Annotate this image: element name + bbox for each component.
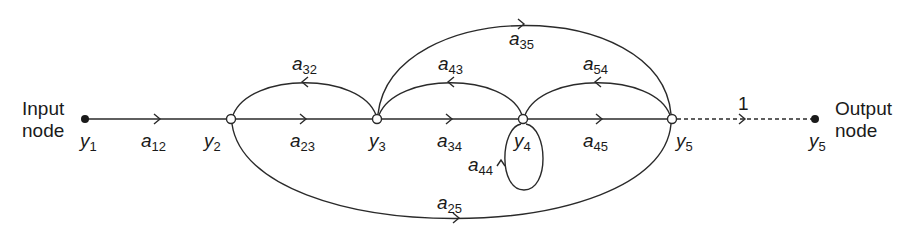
branch-label-a43: a43 [438, 54, 463, 76]
output-node-label: Output node [835, 98, 892, 142]
node-y3 [373, 115, 382, 124]
node-y2 [227, 115, 236, 124]
node-y5-output [811, 115, 819, 123]
branch-label-a54: a54 [583, 54, 608, 76]
branch-label-a23: a23 [290, 131, 315, 153]
input-label-line1: Input [22, 98, 64, 120]
branch-label-a45: a45 [583, 131, 608, 153]
branch-label-a44: a44 [468, 155, 493, 177]
branch-label-a12: a12 [141, 131, 166, 153]
node-y1-input [81, 115, 89, 123]
node-label-y5-output: y5 [809, 131, 826, 153]
input-node-label: Input node [22, 98, 64, 142]
branch-label-a25: a25 [437, 193, 462, 215]
unity-gain-label: 1 [738, 94, 749, 113]
node-y5 [668, 115, 677, 124]
node-label-y5: y5 [676, 131, 693, 153]
branch-label-a34: a34 [437, 131, 462, 153]
arrow-icon [497, 160, 505, 166]
branch-label-a32: a32 [292, 54, 317, 76]
branch-a43 [379, 83, 522, 115]
node-label-y2: y2 [204, 131, 221, 153]
node-label-y4: y4 [514, 131, 531, 153]
node-y4 [519, 115, 528, 124]
branch-a32 [233, 83, 376, 115]
output-label-line2: node [835, 120, 892, 142]
arrow-icon [595, 77, 601, 87]
arrow-icon [448, 77, 454, 87]
output-label-line1: Output [835, 98, 892, 120]
input-label-line2: node [22, 120, 64, 142]
arrow-icon [302, 77, 308, 87]
node-label-y1: y1 [80, 131, 97, 153]
node-label-y3: y3 [369, 131, 386, 153]
branch-a54 [525, 83, 670, 115]
branch-label-a35: a35 [509, 29, 534, 51]
